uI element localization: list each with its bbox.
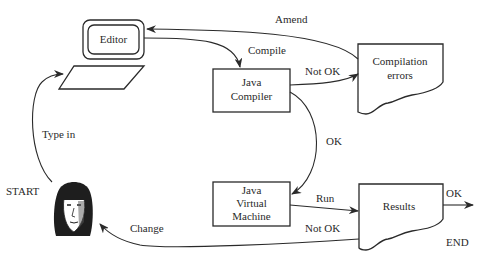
java-development-cycle-diagram: Editor Java Compiler Compilation errors … bbox=[0, 0, 486, 269]
not-ok-results-label: Not OK bbox=[305, 222, 340, 234]
editor-label: Editor bbox=[100, 33, 128, 45]
ok-compile-label: OK bbox=[326, 135, 342, 147]
compiler-node: Java Compiler bbox=[213, 69, 290, 112]
keyboard-icon bbox=[59, 66, 144, 89]
change-label: Change bbox=[130, 222, 164, 234]
compiler-label-line2: Compiler bbox=[231, 90, 273, 102]
not-ok-compile-label: Not OK bbox=[305, 65, 340, 77]
compile-label: Compile bbox=[248, 44, 286, 56]
compiler-label-line1: Java bbox=[242, 76, 262, 88]
ok-results-label: OK bbox=[446, 187, 462, 199]
type-in-label: Type in bbox=[42, 128, 76, 140]
compilation-errors-label-line1: Compilation bbox=[373, 55, 429, 67]
run-arrow bbox=[290, 205, 358, 211]
compilation-errors-label-line2: errors bbox=[387, 69, 413, 81]
start-label: START bbox=[6, 185, 40, 197]
amend-label: Amend bbox=[275, 13, 308, 25]
jvm-label-line3: Machine bbox=[232, 210, 271, 222]
jvm-label-line2: Virtual bbox=[236, 197, 267, 209]
compilation-errors-node: Compilation errors bbox=[358, 44, 443, 114]
compile-arrow bbox=[144, 38, 240, 67]
user-face-icon bbox=[54, 182, 93, 236]
editor-node: Editor bbox=[83, 20, 144, 59]
end-label: END bbox=[446, 236, 469, 248]
results-document-shape bbox=[359, 184, 443, 250]
results-label: Results bbox=[383, 200, 415, 212]
run-label: Run bbox=[316, 192, 335, 204]
jvm-label-line1: Java bbox=[242, 184, 262, 196]
ok-compile-arrow bbox=[290, 92, 317, 194]
results-node: Results bbox=[359, 184, 443, 250]
jvm-node: Java Virtual Machine bbox=[213, 182, 290, 226]
